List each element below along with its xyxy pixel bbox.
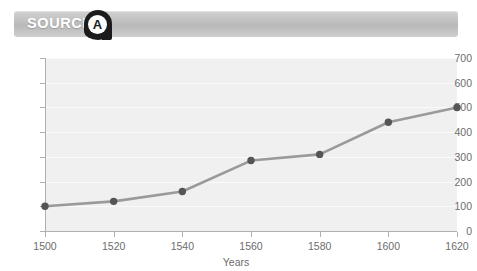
x-tick-mark: [320, 232, 321, 237]
data-point-marker: [385, 119, 392, 126]
x-tick-mark: [388, 232, 389, 237]
series-polyline: [45, 107, 457, 206]
data-series-line: [45, 58, 457, 231]
x-tick-label: 1600: [365, 240, 411, 252]
x-axis-title: Years: [0, 256, 472, 268]
data-point-marker: [41, 203, 48, 210]
source-label: SOURCE: [27, 15, 93, 31]
source-badge-letter: A: [88, 15, 107, 34]
x-tick-label: 1620: [434, 240, 477, 252]
x-tick-mark: [45, 232, 46, 237]
data-point-marker: [453, 104, 460, 111]
source-header-bar: SOURCE A: [14, 11, 458, 37]
data-point-marker: [316, 151, 323, 158]
x-tick-mark: [182, 232, 183, 237]
x-tick-label: 1520: [91, 240, 137, 252]
source-badge: A: [84, 10, 112, 40]
x-tick-label: 1540: [159, 240, 205, 252]
x-tick-label: 1560: [228, 240, 274, 252]
x-tick-mark: [251, 232, 252, 237]
x-tick-label: 1500: [22, 240, 68, 252]
x-tick-mark: [457, 232, 458, 237]
data-point-marker: [110, 198, 117, 205]
x-tick-label: 1580: [297, 240, 343, 252]
data-point-marker: [179, 188, 186, 195]
x-tick-mark: [114, 232, 115, 237]
line-chart: 0100200300400500600700 15001520154015601…: [0, 46, 472, 271]
data-point-marker: [247, 157, 254, 164]
